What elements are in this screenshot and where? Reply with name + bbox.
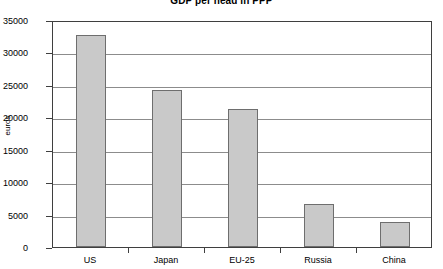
- y-axis-tick-label: 10000: [0, 179, 28, 188]
- y-axis-tick-label: 15000: [0, 147, 28, 156]
- x-axis-tick-mark: [128, 248, 129, 253]
- bar-russia[interactable]: [304, 204, 334, 247]
- x-axis-tick-label: China: [349, 255, 439, 265]
- y-axis-tick-label: 25000: [0, 82, 28, 91]
- bar-japan[interactable]: [152, 90, 182, 247]
- x-axis-tick-mark: [280, 248, 281, 253]
- bar-us[interactable]: [76, 35, 106, 247]
- y-axis-tick-label: 0: [0, 244, 28, 253]
- y-axis-tick-label: 30000: [0, 49, 28, 58]
- y-axis-tick-mark: [46, 248, 52, 249]
- x-axis-tick-mark: [356, 248, 357, 253]
- bar-eu-25[interactable]: [228, 109, 258, 247]
- gridline: [53, 54, 431, 55]
- plot-area: [52, 21, 432, 248]
- y-axis-tick-label: 35000: [0, 17, 28, 26]
- chart-title: GDP per head in PPP: [0, 0, 443, 7]
- gridline: [53, 87, 431, 88]
- y-axis-tick-label: 20000: [0, 114, 28, 123]
- bar-chart: GDP per head in PPP euros 05000100001500…: [0, 0, 443, 269]
- y-axis-title: euros: [3, 103, 12, 149]
- x-axis-tick-mark: [204, 248, 205, 253]
- y-axis-tick-label: 5000: [0, 212, 28, 221]
- bar-china[interactable]: [380, 222, 410, 247]
